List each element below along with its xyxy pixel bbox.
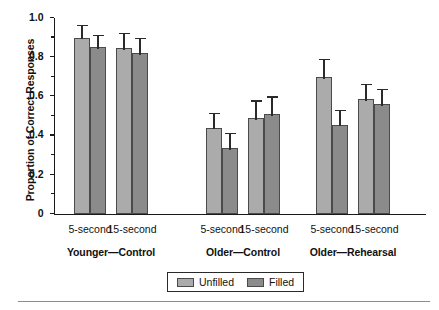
- bar: [374, 104, 390, 214]
- legend-swatch-icon-filled: [247, 278, 264, 287]
- y-tick-label: 0.4: [29, 128, 44, 140]
- error-bar-cap: [319, 59, 330, 60]
- y-tick-minor: [51, 193, 54, 194]
- y-tick-0.4: 0.4: [50, 134, 55, 135]
- x-axis-line: [54, 214, 426, 215]
- error-bar-cap: [77, 25, 88, 26]
- bar: [264, 114, 280, 214]
- y-tick-label: 0: [38, 207, 44, 219]
- error-bar-cap: [377, 89, 388, 90]
- legend-item-filled: Filled: [247, 276, 294, 288]
- group-label: Older—Rehearsal: [310, 246, 397, 258]
- error-bar-cap: [135, 38, 146, 39]
- bar: [358, 99, 374, 214]
- condition-label-15-second: 15-second: [239, 223, 288, 235]
- bottom-divider: [18, 301, 430, 302]
- condition-label-5-second: 5-second: [200, 223, 243, 235]
- error-bar-cap: [93, 35, 104, 36]
- error-bar: [123, 34, 124, 50]
- error-bar-cap: [361, 84, 372, 85]
- y-tick-minor: [51, 115, 54, 116]
- plot-area: 00.20.40.60.81.0: [54, 18, 426, 214]
- error-bar-cap: [119, 33, 130, 34]
- y-tick-minor: [51, 154, 54, 155]
- error-bar: [213, 114, 214, 130]
- group-label: Older—Control: [206, 246, 280, 258]
- y-tick-label: 0.6: [29, 89, 44, 101]
- bar: [332, 125, 348, 214]
- error-bar: [139, 39, 140, 55]
- error-bar-cap: [225, 133, 236, 134]
- y-tick-minor: [51, 76, 54, 77]
- error-bar-cap: [251, 100, 262, 101]
- y-tick-0.6: 0.6: [50, 95, 55, 96]
- y-tick-0.2: 0.2: [50, 174, 55, 175]
- error-bar: [365, 85, 366, 101]
- bar: [316, 77, 332, 214]
- legend-item-unfilled: Unfilled: [177, 276, 234, 288]
- bar: [132, 53, 148, 214]
- legend-label-unfilled: Unfilled: [199, 276, 234, 288]
- group-label: Younger—Control: [67, 246, 155, 258]
- error-bar: [97, 36, 98, 49]
- legend: Unfilled Filled: [167, 272, 304, 292]
- condition-label-5-second: 5-second: [310, 223, 353, 235]
- legend-label-filled: Filled: [269, 276, 294, 288]
- y-tick-0.8: 0.8: [50, 56, 55, 57]
- bar: [90, 47, 106, 214]
- bar: [248, 118, 264, 214]
- condition-label-5-second: 5-second: [68, 223, 111, 235]
- condition-label-15-second: 15-second: [349, 223, 398, 235]
- y-tick-1.0: 1.0: [50, 17, 55, 18]
- bar: [116, 48, 132, 214]
- bar: [74, 38, 90, 214]
- error-bar: [81, 26, 82, 39]
- y-tick-label: 0.8: [29, 50, 44, 62]
- error-bar-cap: [267, 96, 278, 97]
- condition-label-15-second: 15-second: [107, 223, 156, 235]
- error-bar: [255, 102, 256, 120]
- y-tick-label: 1.0: [29, 11, 44, 23]
- y-axis-line: [54, 18, 55, 215]
- bar: [222, 148, 238, 214]
- y-tick-label: 0.2: [29, 168, 44, 180]
- y-tick-minor: [51, 36, 54, 37]
- error-bar: [381, 90, 382, 106]
- error-bar: [339, 111, 340, 127]
- error-bar: [271, 98, 272, 116]
- error-bar-cap: [335, 110, 346, 111]
- bar: [206, 128, 222, 214]
- y-tick-0: 0: [50, 213, 55, 214]
- error-bar: [323, 60, 324, 78]
- error-bar-cap: [209, 113, 220, 114]
- error-bar: [229, 134, 230, 150]
- legend-swatch-icon-unfilled: [177, 278, 194, 287]
- bar-chart-figure: Proportion of Correct Responses 00.20.40…: [0, 0, 439, 310]
